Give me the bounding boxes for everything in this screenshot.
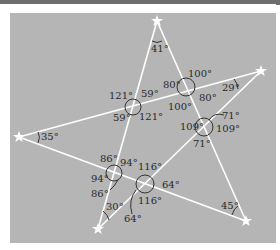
- angle-label: 80°: [199, 92, 217, 103]
- angle-label: 116°: [138, 161, 162, 172]
- star-icon: [240, 215, 252, 226]
- angle-label: 71°: [193, 138, 211, 149]
- angle-label: 59°: [141, 88, 159, 99]
- angle-label: 100°: [188, 68, 212, 79]
- angle-label-left: 35°: [41, 131, 59, 142]
- angle-label: 80°: [163, 79, 181, 90]
- angle-label: 94°: [120, 157, 138, 168]
- angle-label: 64°: [124, 213, 142, 224]
- angle-label-bottom-left: 30°: [106, 201, 124, 212]
- star-icon: [151, 15, 163, 26]
- angle-label: 121°: [109, 90, 133, 101]
- angle-label-bottom-right: 45°: [221, 200, 239, 211]
- angle-label-right: 29°: [222, 82, 240, 93]
- angle-label: 121°: [139, 111, 163, 122]
- angle-label: 86°: [91, 188, 109, 199]
- angle-label: 86°: [100, 153, 118, 164]
- angle-label-top: 41°: [151, 43, 169, 54]
- angle-label: 64°: [162, 179, 180, 190]
- line-left-to-bottom-right: [19, 137, 246, 221]
- angle-label: 59°: [113, 112, 131, 123]
- angle-label: 109°: [216, 123, 240, 134]
- angle-label: 71°: [222, 110, 240, 121]
- arc-left: [38, 132, 40, 143]
- angle-label: 109°: [180, 121, 204, 132]
- angle-label: 100°: [168, 101, 192, 112]
- pentagram-diagram: 41° 29° 35° 30° 45° 121° 59° 59° 121° 10…: [0, 0, 280, 250]
- angle-label: 116°: [138, 195, 162, 206]
- angle-label: 94°: [91, 173, 109, 184]
